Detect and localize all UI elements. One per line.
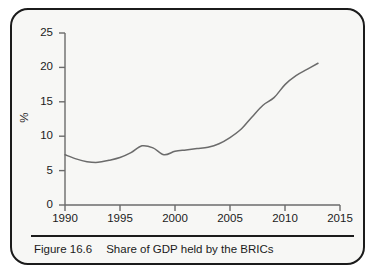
figure-caption-label: Figure 16.6 (34, 243, 92, 257)
figure-caption: Figure 16.6 Share of GDP held by the BRI… (34, 243, 354, 257)
data-series-line (65, 63, 318, 162)
x-tick-label-2010: 2010 (265, 213, 305, 225)
x-tick-label-2015: 2015 (320, 213, 360, 225)
y-tick-label-5: 5 (27, 165, 53, 177)
x-tick-label-2000: 2000 (155, 213, 195, 225)
x-axis-ticks (65, 205, 340, 211)
chart-plot-area: 25 20 15 10 5 0 % 1990 1995 2000 2005 20… (12, 10, 367, 228)
y-axis-ticks (59, 33, 65, 205)
y-tick-label-0: 0 (27, 199, 53, 211)
figure-caption-text: Share of GDP held by the BRICs (106, 243, 273, 257)
x-tick-label-2005: 2005 (210, 213, 250, 225)
x-tick-label-1995: 1995 (100, 213, 140, 225)
y-tick-label-15: 15 (27, 96, 53, 108)
x-tick-label-1990: 1990 (45, 213, 85, 225)
line-chart-svg (12, 10, 367, 228)
chart-axes (65, 33, 340, 205)
caption-divider (31, 235, 354, 237)
y-tick-label-25: 25 (27, 27, 53, 39)
y-tick-label-20: 20 (27, 61, 53, 73)
y-axis-title: % (19, 113, 31, 123)
y-tick-label-10: 10 (27, 130, 53, 142)
figure-card: 25 20 15 10 5 0 % 1990 1995 2000 2005 20… (10, 8, 365, 265)
